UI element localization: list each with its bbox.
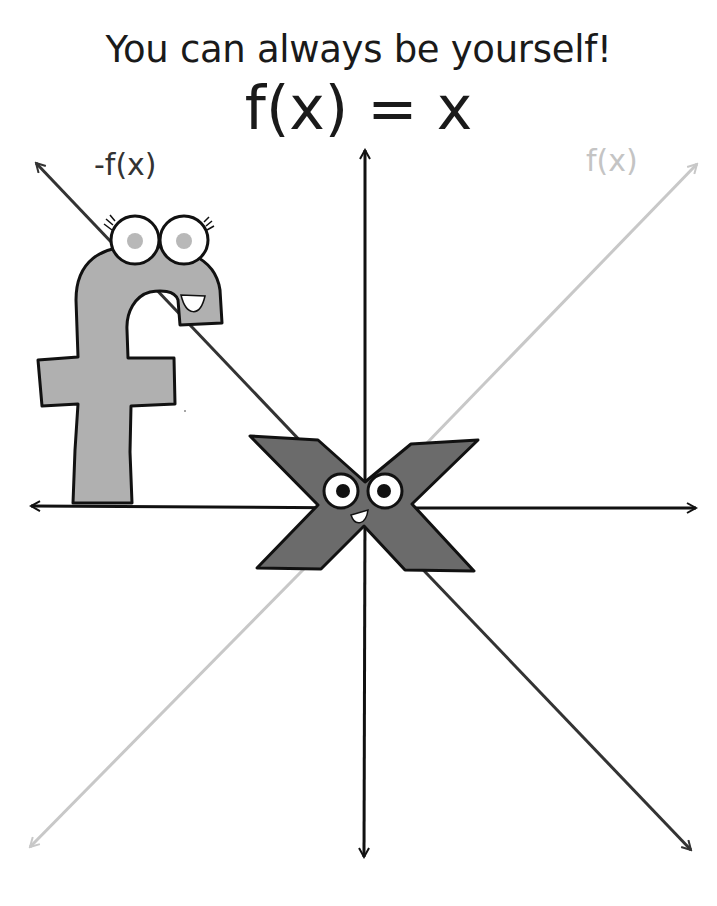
f-character bbox=[38, 215, 222, 503]
graph-illustration bbox=[0, 0, 717, 906]
